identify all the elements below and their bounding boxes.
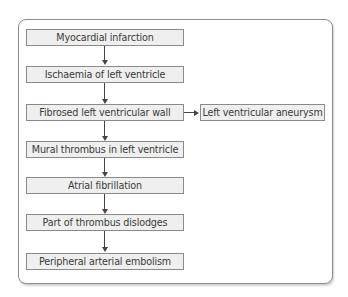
node-peripheral-embolism: Peripheral arterial embolism xyxy=(26,253,184,270)
node-label: Ischaemia of left ventricle xyxy=(45,69,166,80)
arrow-down-icon xyxy=(102,247,108,252)
arrow-shaft xyxy=(104,83,105,99)
node-ischaemia-left-ventricle: Ischaemia of left ventricle xyxy=(26,66,184,83)
arrow-shaft xyxy=(104,121,105,136)
arrow-shaft xyxy=(104,158,105,172)
arrow-shaft xyxy=(184,112,194,113)
node-fibrosed-wall: Fibrosed left ventricular wall xyxy=(26,104,184,121)
node-label: Atrial fibrillation xyxy=(68,180,142,191)
node-label: Left ventricular aneurysm xyxy=(202,107,322,118)
arrow-down-icon xyxy=(102,60,108,65)
node-label: Peripheral arterial embolism xyxy=(39,256,171,267)
node-label: Fibrosed left ventricular wall xyxy=(39,107,170,118)
arrow-shaft xyxy=(104,231,105,247)
node-label: Myocardial infarction xyxy=(56,32,153,43)
node-left-ventricular-aneurysm: Left ventricular aneurysm xyxy=(200,104,325,121)
arrow-right-icon xyxy=(194,110,199,116)
arrow-shaft xyxy=(104,46,105,60)
node-label: Part of thrombus dislodges xyxy=(43,217,168,228)
node-atrial-fibrillation: Atrial fibrillation xyxy=(26,177,184,194)
node-thrombus-dislodges: Part of thrombus dislodges xyxy=(26,214,184,231)
arrow-shaft xyxy=(104,194,105,209)
node-mural-thrombus: Mural thrombus in left ventricle xyxy=(26,141,184,158)
node-myocardial-infarction: Myocardial infarction xyxy=(26,29,184,46)
node-label: Mural thrombus in left ventricle xyxy=(32,144,178,155)
